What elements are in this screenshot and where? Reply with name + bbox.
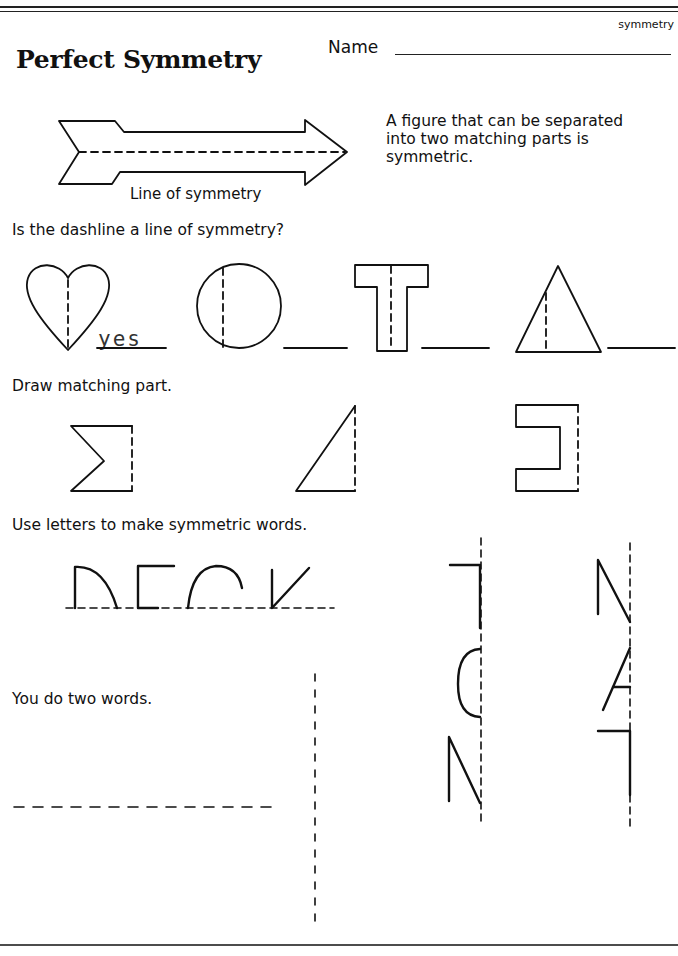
- bracket-half-shape: [516, 405, 578, 491]
- arrow-figure: [59, 120, 347, 185]
- right-triangle-half-shape: [296, 406, 355, 491]
- tom-word-example: [449, 538, 481, 824]
- letter-t-shape: [355, 265, 428, 351]
- deck-word-example: [66, 566, 334, 608]
- heart-shape: [27, 265, 109, 350]
- triangle-shape: [516, 266, 601, 352]
- circle-shape: [197, 264, 281, 348]
- mat-word-example: [598, 543, 630, 828]
- sigma-half-shape: [71, 426, 132, 491]
